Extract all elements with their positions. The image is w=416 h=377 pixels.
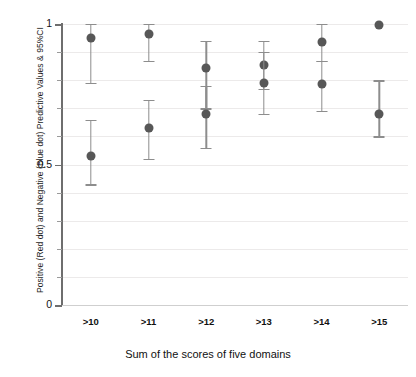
x-axis-tick-label: >14 xyxy=(292,316,352,327)
positive-predictive-value-point xyxy=(202,63,211,72)
gridline xyxy=(62,165,408,166)
error-bar-cap xyxy=(374,136,385,137)
positive-predictive-value-point xyxy=(144,29,153,38)
error-bar-cap xyxy=(85,24,96,25)
negative-predictive-value-point xyxy=(259,79,268,88)
gridline xyxy=(62,24,408,25)
gridline xyxy=(62,52,408,53)
error-bar-cap xyxy=(258,52,269,53)
error-bar-cap xyxy=(143,24,154,25)
x-axis-tick-label: >10 xyxy=(61,316,121,327)
y-axis-minor-tick xyxy=(57,52,62,53)
gridline xyxy=(62,221,408,222)
y-axis-minor-tick xyxy=(57,80,62,81)
error-bar-cap xyxy=(85,184,96,185)
negative-predictive-value-point xyxy=(375,109,384,118)
error-bar-cap xyxy=(258,114,269,115)
y-axis-minor-tick xyxy=(57,136,62,137)
error-bar-cap xyxy=(143,159,154,160)
gridline xyxy=(62,277,408,278)
y-axis-tick-label: 0 xyxy=(12,299,52,310)
gridline xyxy=(62,80,408,81)
y-axis-tick-label: 0.5 xyxy=(12,159,52,170)
x-axis-tick-label: >11 xyxy=(119,316,179,327)
plot-area xyxy=(62,24,408,305)
error-bar-cap xyxy=(374,80,385,81)
error-bar-cap xyxy=(316,61,327,62)
error-bar xyxy=(378,80,379,136)
y-axis-minor-tick xyxy=(57,108,62,109)
x-axis-tick-label: >12 xyxy=(176,316,236,327)
negative-predictive-value-point xyxy=(202,109,211,118)
error-bar-cap xyxy=(316,111,327,112)
positive-predictive-value-point xyxy=(375,21,384,30)
y-axis-minor-tick xyxy=(57,249,62,250)
predictive-values-chart: Positive (Red dot) and Negative (Blue do… xyxy=(0,0,416,377)
positive-predictive-value-point xyxy=(317,38,326,47)
negative-predictive-value-point xyxy=(144,124,153,133)
error-bar-cap xyxy=(316,24,327,25)
error-bar-cap xyxy=(143,61,154,62)
negative-predictive-value-point xyxy=(317,80,326,89)
gridline xyxy=(62,193,408,194)
x-axis-title: Sum of the scores of five domains xyxy=(0,348,416,360)
error-bar-cap xyxy=(85,83,96,84)
y-axis-major-tick xyxy=(55,165,62,167)
y-axis-tick-label: 1 xyxy=(12,18,52,29)
y-axis-minor-tick xyxy=(57,193,62,194)
y-axis-major-tick xyxy=(55,24,62,26)
gridline xyxy=(62,136,408,137)
x-axis-tick-label: >13 xyxy=(234,316,294,327)
error-bar-cap xyxy=(258,41,269,42)
error-bar-cap xyxy=(85,120,96,121)
y-axis-minor-tick xyxy=(57,221,62,222)
y-axis-minor-tick xyxy=(57,277,62,278)
y-axis-major-tick xyxy=(55,305,62,307)
error-bar-cap xyxy=(201,86,212,87)
positive-predictive-value-point xyxy=(86,34,95,43)
error-bar-cap xyxy=(201,148,212,149)
error-bar-cap xyxy=(143,100,154,101)
negative-predictive-value-point xyxy=(86,152,95,161)
error-bar-cap xyxy=(201,41,212,42)
x-axis-tick-label: >15 xyxy=(349,316,409,327)
x-axis-line xyxy=(61,305,408,306)
gridline xyxy=(62,249,408,250)
gridline xyxy=(62,108,408,109)
